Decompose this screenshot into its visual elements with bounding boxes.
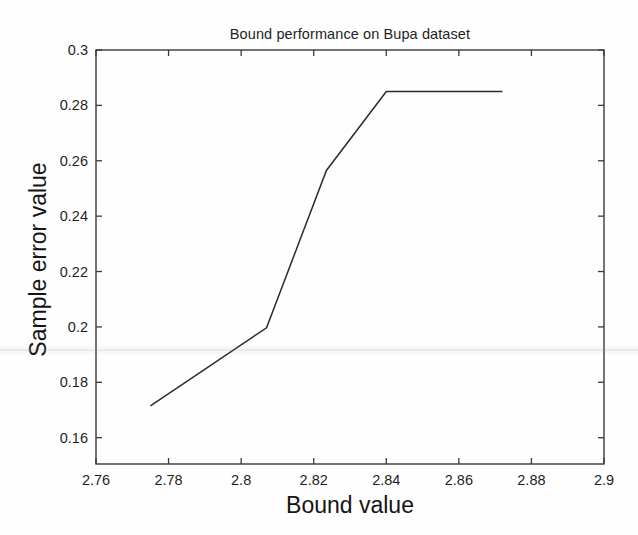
figure-canvas: Bound performance on Bupa dataset Sample…: [0, 0, 638, 535]
plot-area: [0, 0, 638, 535]
y-axis-ticks: [96, 50, 604, 438]
y-tick-label-1: 0.18: [20, 374, 88, 390]
x-tick-label-4: 2.84: [372, 472, 400, 488]
y-tick-label-0: 0.16: [20, 430, 88, 446]
axes-frame: [96, 50, 604, 464]
x-tick-label-3: 2.82: [300, 472, 328, 488]
x-tick-label-6: 2.88: [517, 472, 545, 488]
x-axis-ticks: [96, 50, 604, 464]
x-tick-label-2: 2.8: [231, 472, 251, 488]
y-tick-label-4: 0.24: [20, 208, 88, 224]
y-tick-label-6: 0.28: [20, 97, 88, 113]
y-tick-label-2: 0.2: [20, 319, 88, 335]
y-tick-label-3: 0.22: [20, 264, 88, 280]
axes-box: [96, 50, 604, 464]
y-tick-label-7: 0.3: [20, 42, 88, 58]
x-tick-label-1: 2.78: [154, 472, 182, 488]
data-series-group: [150, 92, 502, 406]
x-tick-label-5: 2.86: [445, 472, 473, 488]
x-tick-label-0: 2.76: [82, 472, 110, 488]
series-line-0: [150, 92, 502, 406]
y-tick-label-5: 0.26: [20, 153, 88, 169]
x-tick-label-7: 2.9: [594, 472, 614, 488]
